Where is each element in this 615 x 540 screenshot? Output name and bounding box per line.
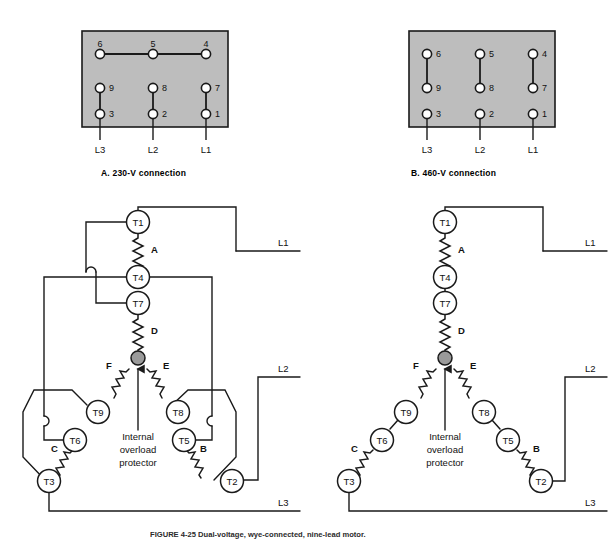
panel-b-schematic: L1 A D F E C B	[338, 207, 608, 511]
svg-text:T3: T3	[43, 476, 54, 487]
svg-text:2: 2	[162, 109, 167, 119]
svg-text:T8: T8	[478, 407, 489, 418]
panel-a-node-t9: T9	[87, 401, 110, 424]
svg-text:T2: T2	[226, 476, 237, 487]
panel-b-node-t3: T3	[338, 470, 361, 493]
panel-a-node-t3: T3	[38, 470, 61, 493]
svg-text:T4: T4	[439, 272, 450, 283]
panel-a-node-t7: T7	[127, 292, 150, 315]
svg-text:T8: T8	[172, 407, 183, 418]
svg-text:3: 3	[436, 109, 441, 119]
motor-connection-diagram: 6 5 4 9 8 7	[0, 0, 615, 540]
panel-b-coil-a-label: A	[458, 244, 465, 255]
panel-b-line-label-l3: L3	[422, 144, 433, 155]
panel-a-node-t5: T5	[173, 429, 196, 452]
panel-b-overload-protector-hub	[438, 351, 452, 365]
svg-text:T2: T2	[535, 476, 546, 487]
panel-b-supply-l3: L3	[585, 497, 596, 508]
panel-b-line-label-l2: L2	[475, 144, 486, 155]
svg-text:T3: T3	[343, 476, 354, 487]
panel-a-coil-e-label: E	[163, 360, 169, 371]
svg-text:T7: T7	[439, 298, 450, 309]
panel-a-supply-l1: L1	[278, 237, 289, 248]
svg-text:5: 5	[150, 39, 155, 49]
svg-text:1: 1	[215, 109, 220, 119]
panel-b-terminal-box: 6 5 4 9 8 7	[409, 31, 555, 155]
panel-b-coil-d-label: D	[458, 325, 465, 336]
panel-b-node-t4: T4	[434, 266, 457, 289]
svg-text:T9: T9	[92, 407, 103, 418]
panel-a-coil-f-label: F	[106, 360, 112, 371]
panel-b-supply-l1: L1	[585, 237, 596, 248]
svg-text:9: 9	[436, 83, 441, 93]
panel-a-node-t1: T1	[127, 211, 150, 234]
panel-b-coil-e-label: E	[470, 360, 476, 371]
svg-text:overload: overload	[120, 444, 156, 455]
panel-a-node-t2: T2	[221, 470, 244, 493]
panel-b-coil-f-label: F	[413, 360, 419, 371]
svg-text:T1: T1	[439, 217, 450, 228]
panel-a-line-label-l2: L2	[148, 144, 159, 155]
panel-b-node-t7: T7	[434, 292, 457, 315]
panel-b-node-t6: T6	[371, 429, 394, 452]
panel-b-node-t2: T2	[530, 470, 553, 493]
svg-text:T4: T4	[132, 272, 143, 283]
svg-text:Internal: Internal	[122, 431, 154, 442]
panel-b-node-t9: T9	[395, 401, 418, 424]
svg-text:4: 4	[542, 49, 547, 59]
panel-b-line-label-l1: L1	[528, 144, 539, 155]
panel-a-supply-l3: L3	[278, 497, 289, 508]
svg-text:protector: protector	[426, 457, 464, 468]
svg-text:T6: T6	[376, 435, 387, 446]
panel-a-coil-a-label: A	[151, 244, 158, 255]
svg-text:6: 6	[97, 39, 102, 49]
svg-text:5: 5	[489, 49, 494, 59]
panel-a-line-label-l3: L3	[95, 144, 106, 155]
svg-text:3: 3	[109, 109, 114, 119]
panel-a-title: A. 230-V connection	[101, 168, 186, 178]
panel-b-overload-caption: Internal overload protector	[426, 431, 464, 468]
panel-b-supply-l2: L2	[585, 363, 596, 374]
panel-a-node-t8: T8	[167, 401, 190, 424]
panel-a-node-t4: T4	[127, 266, 150, 289]
figure-caption: FIGURE 4-25 Dual-voltage, wye-connected,…	[150, 530, 550, 540]
panel-a-schematic: L1 L3 L2 A	[23, 207, 300, 511]
panel-a-coil-d-label: D	[151, 325, 158, 336]
svg-text:7: 7	[542, 83, 547, 93]
svg-text:1: 1	[542, 109, 547, 119]
svg-text:T9: T9	[400, 407, 411, 418]
svg-text:T5: T5	[502, 435, 513, 446]
svg-text:9: 9	[109, 83, 114, 93]
panel-b-coil-b-label: B	[533, 443, 540, 454]
svg-text:T5: T5	[178, 435, 189, 446]
panel-a-supply-l2: L2	[278, 363, 289, 374]
panel-b-node-t1: T1	[434, 211, 457, 234]
svg-text:overload: overload	[427, 444, 463, 455]
panel-b-coil-c-label: C	[351, 443, 358, 454]
svg-text:2: 2	[489, 109, 494, 119]
panel-a-coil-c-label: C	[51, 443, 58, 454]
panel-a-terminal-box: 6 5 4 9 8 7	[82, 31, 228, 155]
panel-a-overload-protector-hub	[131, 351, 145, 365]
panel-a-line-label-l1: L1	[201, 144, 212, 155]
panel-b-title: B. 460-V connection	[411, 168, 496, 178]
svg-text:8: 8	[489, 83, 494, 93]
svg-text:T6: T6	[69, 435, 80, 446]
svg-text:T7: T7	[132, 298, 143, 309]
panel-b-node-t5: T5	[497, 429, 520, 452]
figure-canvas: 6 5 4 9 8 7	[0, 0, 615, 540]
svg-text:4: 4	[203, 39, 208, 49]
svg-text:8: 8	[162, 83, 167, 93]
svg-text:Internal: Internal	[429, 431, 461, 442]
svg-text:7: 7	[215, 83, 220, 93]
svg-text:protector: protector	[119, 457, 157, 468]
panel-a-node-t6: T6	[64, 429, 87, 452]
panel-b-node-t8: T8	[473, 401, 496, 424]
panel-a-overload-caption: Internal overload protector	[119, 431, 157, 468]
panel-a-coil-b-label: B	[200, 443, 207, 454]
svg-text:T1: T1	[132, 217, 143, 228]
svg-text:6: 6	[436, 49, 441, 59]
